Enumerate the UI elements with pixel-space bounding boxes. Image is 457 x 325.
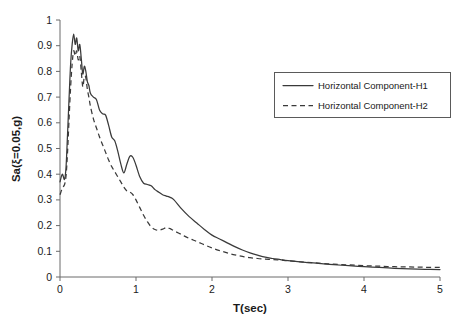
response-spectrum-chart: 00.10.20.30.40.50.60.70.80.91 012345 Sa(…: [0, 0, 457, 325]
y-tick-label: 0.5: [37, 142, 52, 154]
legend-label-h1: Horizontal Component-H1: [318, 80, 428, 91]
legend-label-h2: Horizontal Component-H2: [318, 100, 428, 111]
x-tick-label: 4: [361, 283, 367, 295]
x-tick-label: 5: [437, 283, 443, 295]
y-tick-label: 0.3: [37, 193, 52, 205]
y-tick-label: 0.4: [37, 168, 52, 180]
x-tick-label: 1: [133, 283, 139, 295]
chart-legend: Horizontal Component-H1 Horizontal Compo…: [275, 73, 451, 118]
x-tick-label: 2: [209, 283, 215, 295]
data-series-group: [60, 34, 440, 269]
x-tick-label: 3: [285, 283, 291, 295]
y-tick-label: 0.6: [37, 116, 52, 128]
spectral-acceleration-figure: 00.10.20.30.40.50.60.70.80.91 012345 Sa(…: [0, 0, 457, 325]
x-tick-label: 0: [57, 283, 63, 295]
y-tick-label: 0.7: [37, 91, 52, 103]
y-axis-title: Sa(ξ=0.05,g): [10, 116, 23, 182]
x-axis-ticks: 012345: [57, 277, 443, 295]
y-tick-label: 0.2: [37, 219, 52, 231]
y-tick-label: 0: [46, 271, 52, 283]
y-axis-ticks: 00.10.20.30.40.50.60.70.80.91: [37, 14, 60, 283]
series-line-h1: [60, 34, 440, 269]
y-tick-label: 0.9: [37, 39, 52, 51]
y-tick-label: 1: [46, 14, 52, 26]
y-tick-label: 0.1: [37, 245, 52, 257]
x-axis-title: T(sec): [233, 302, 267, 314]
y-tick-label: 0.8: [37, 65, 52, 77]
